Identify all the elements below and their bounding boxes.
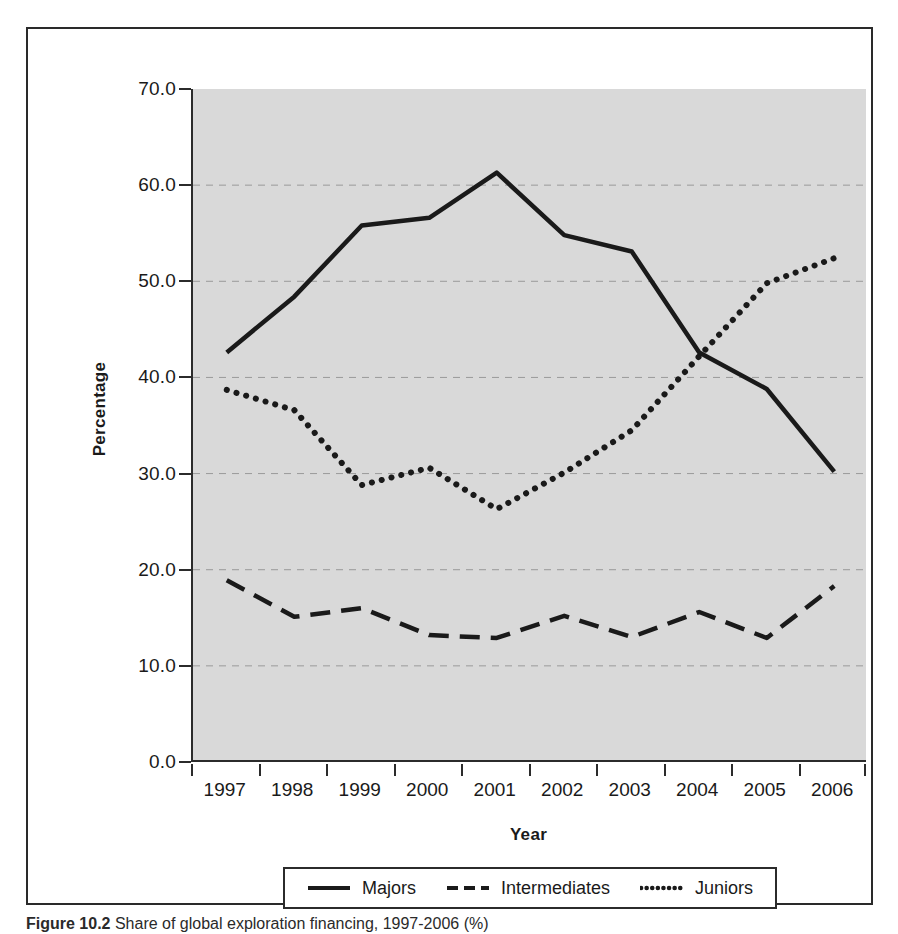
legend-swatch-dashed	[446, 881, 490, 895]
legend-label: Majors	[362, 878, 416, 899]
x-tick-mark	[864, 764, 866, 776]
x-tick-label: 1998	[271, 779, 313, 801]
x-tick-label: 1999	[339, 779, 381, 801]
y-tick-label: 60.0	[138, 174, 176, 196]
y-tick-mark	[179, 761, 191, 763]
y-tick-mark	[179, 88, 191, 90]
x-axis-tick-labels: 1997199819992000200120022003200420052006	[191, 779, 866, 807]
y-tick-label: 10.0	[138, 655, 176, 677]
legend-swatch-solid	[307, 881, 351, 895]
chart-legend: MajorsIntermediatesJuniors	[283, 867, 777, 909]
y-axis-tick-marks	[179, 89, 191, 762]
y-axis-label: Percentage	[90, 329, 110, 489]
plot-svg	[193, 89, 868, 762]
x-tick-label: 2003	[609, 779, 651, 801]
series-line-majors	[227, 173, 835, 472]
y-tick-label: 20.0	[138, 559, 176, 581]
series-line-intermediates	[227, 580, 835, 638]
figure-caption: Figure 10.2 Share of global exploration …	[26, 915, 873, 933]
legend-label: Juniors	[695, 878, 753, 899]
plot-area	[191, 89, 866, 762]
x-tick-mark	[596, 764, 598, 776]
x-tick-mark	[191, 764, 193, 776]
y-tick-mark	[179, 280, 191, 282]
x-tick-mark	[731, 764, 733, 776]
x-tick-label: 2002	[541, 779, 583, 801]
y-tick-label: 50.0	[138, 270, 176, 292]
figure-frame: 0.010.020.030.040.050.060.070.0 Percenta…	[26, 27, 873, 905]
y-tick-mark	[179, 184, 191, 186]
x-tick-mark	[664, 764, 666, 776]
x-tick-label: 2005	[744, 779, 786, 801]
x-axis-tick-marks	[191, 764, 866, 776]
y-tick-label: 70.0	[138, 78, 176, 100]
caption-label: Figure 10.2	[26, 915, 110, 932]
legend-item-juniors: Juniors	[640, 878, 753, 899]
x-tick-label: 2000	[406, 779, 448, 801]
y-tick-label: 30.0	[138, 463, 176, 485]
x-tick-mark	[259, 764, 261, 776]
y-tick-mark	[179, 473, 191, 475]
x-tick-label: 2001	[474, 779, 516, 801]
legend-swatch-dotted	[640, 881, 684, 895]
y-tick-mark	[179, 569, 191, 571]
y-tick-label: 40.0	[138, 366, 176, 388]
x-tick-mark	[394, 764, 396, 776]
x-tick-label: 2004	[676, 779, 718, 801]
x-tick-mark	[326, 764, 328, 776]
x-tick-mark	[799, 764, 801, 776]
legend-label: Intermediates	[501, 878, 610, 899]
x-tick-mark	[461, 764, 463, 776]
legend-item-majors: Majors	[307, 878, 416, 899]
y-tick-mark	[179, 665, 191, 667]
y-tick-label: 0.0	[149, 751, 176, 773]
legend-item-intermediates: Intermediates	[446, 878, 610, 899]
x-tick-label: 1997	[204, 779, 246, 801]
x-axis-label: Year	[191, 825, 866, 845]
x-tick-mark	[529, 764, 531, 776]
y-tick-mark	[179, 376, 191, 378]
caption-text: Share of global exploration financing, 1…	[115, 915, 489, 932]
x-tick-label: 2006	[811, 779, 853, 801]
series-line-juniors	[227, 258, 835, 509]
